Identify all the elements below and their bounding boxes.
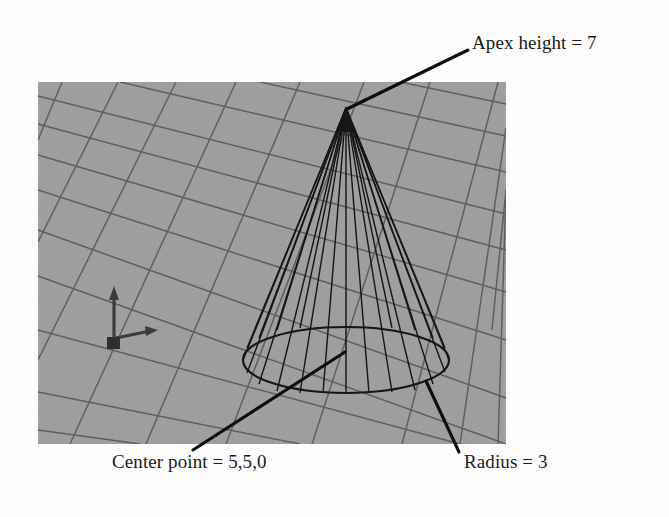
annotation-apex-height: Apex height = 7 bbox=[472, 33, 597, 53]
annotation-radius: Radius = 3 bbox=[464, 452, 548, 472]
figure-canvas bbox=[0, 0, 669, 517]
viewport-panel bbox=[38, 82, 506, 444]
cone-figure: Apex height = 7 Center point = 5,5,0 Rad… bbox=[0, 0, 669, 517]
axis-origin-marker bbox=[107, 337, 120, 349]
annotation-center-point: Center point = 5,5,0 bbox=[112, 452, 267, 472]
